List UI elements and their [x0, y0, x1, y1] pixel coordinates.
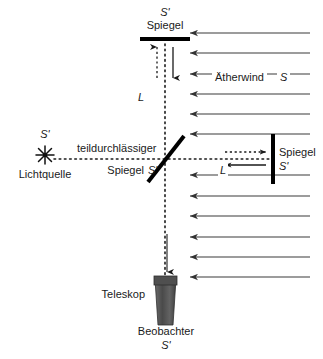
right-mirror-label: Spiegel: [279, 146, 316, 158]
light-source-frame-label: S': [25, 128, 65, 140]
telescope-label: Teleskop: [60, 288, 145, 300]
observer-label: Beobachter: [118, 325, 214, 337]
telescope-eyepiece: [154, 276, 177, 285]
light-source-core: [43, 153, 48, 158]
observer-frame-label: S': [118, 339, 214, 351]
top-mirror-label: Spiegel: [135, 19, 195, 31]
horizontal-arm-length-label: L: [218, 164, 228, 176]
beam-splitter-label-line1: teildurchlässiger: [76, 142, 157, 154]
top-mirror-frame-label: S': [144, 6, 186, 18]
vertical-arm-length-label: L: [138, 91, 144, 103]
right-mirror-frame-label: S': [279, 160, 288, 172]
top-mirror-bar: [140, 37, 190, 41]
ether-wind-frame-label: S: [277, 71, 290, 83]
beam-splitter-frame-label: S': [148, 164, 157, 176]
light-source-label: Lichtquelle: [8, 168, 82, 180]
ether-wind-label: Ätherwind: [212, 71, 267, 83]
right-mirror-bar: [271, 134, 275, 184]
interferometer-diagram: S' Spiegel L Ätherwind S S' Lichtquelle …: [0, 0, 323, 359]
beam-splitter-label-line2: Spiegel: [76, 164, 144, 176]
telescope-body: [155, 279, 176, 325]
